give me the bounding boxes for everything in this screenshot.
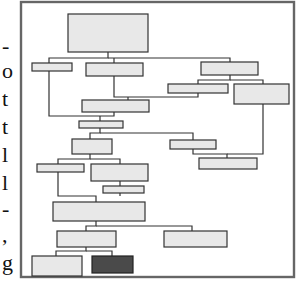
nodes (32, 14, 289, 276)
node (53, 202, 145, 221)
node (57, 231, 116, 247)
node (37, 164, 84, 172)
node (201, 62, 258, 75)
node (86, 63, 143, 76)
node (79, 121, 123, 128)
flowchart-diagram (0, 0, 300, 295)
node (234, 84, 289, 104)
node-root (68, 14, 148, 52)
node (103, 186, 144, 193)
node (164, 231, 227, 247)
node (91, 164, 148, 181)
node (170, 140, 216, 149)
node-leaf (32, 256, 82, 276)
node (82, 100, 149, 112)
node (72, 139, 112, 154)
node-leaf-highlighted (92, 256, 133, 273)
node (168, 84, 228, 93)
node (199, 158, 257, 169)
node (32, 63, 72, 71)
